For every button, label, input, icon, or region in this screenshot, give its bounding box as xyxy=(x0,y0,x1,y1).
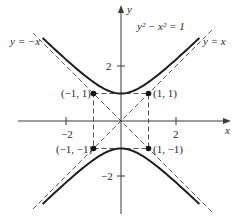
point-label-1-neg1: (1, −1) xyxy=(153,143,183,156)
hyperbola-diagram: y² − x² = 1 y = −x y = x x y −2 2 2 −2 (… xyxy=(0,0,237,217)
y-axis-label: y xyxy=(126,3,132,15)
point-1-neg1 xyxy=(146,146,152,152)
point-label-1-1: (1, 1) xyxy=(153,87,177,100)
y-axis-arrow-icon xyxy=(118,5,124,13)
y-tick-label-neg2: −2 xyxy=(101,170,113,182)
x-tick-label-2: 2 xyxy=(173,128,179,140)
asymptote-right-label: y = x xyxy=(202,35,226,47)
asymptote-y-equals-neg-x xyxy=(33,33,213,213)
point-label-neg1-neg1: (−1, −1) xyxy=(56,143,93,156)
asymptote-y-equals-x xyxy=(33,29,213,209)
equation-label: y² − x² = 1 xyxy=(136,20,185,32)
y-tick-label-2: 2 xyxy=(106,60,112,72)
x-tick-label-neg2: −2 xyxy=(61,128,73,140)
x-axis-label: x xyxy=(224,124,230,136)
point-neg1-1 xyxy=(91,91,97,97)
point-label-neg1-1: (−1, 1) xyxy=(61,87,91,100)
point-1-1 xyxy=(146,91,152,97)
asymptote-left-label: y = −x xyxy=(9,35,40,47)
